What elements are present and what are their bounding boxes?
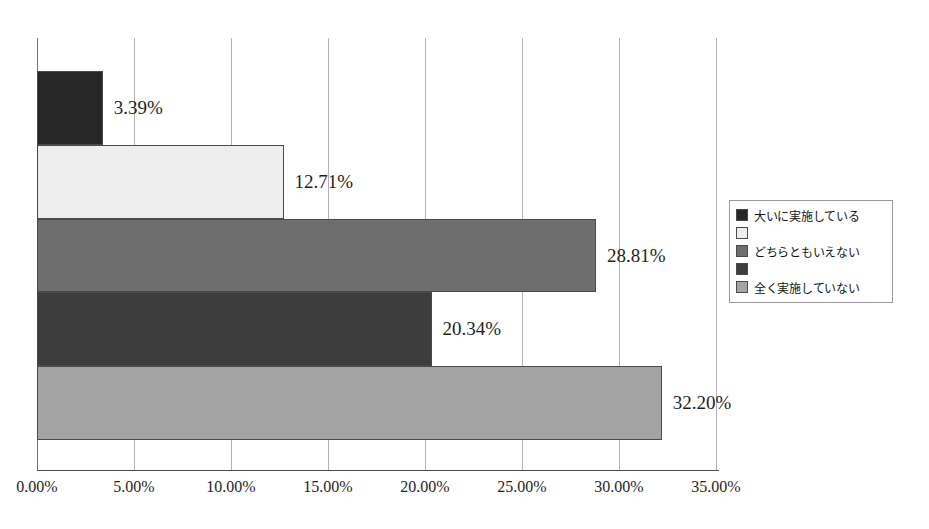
bar-value-label: 20.34% (443, 319, 502, 338)
legend-item-label: どちらともいえない (754, 243, 859, 260)
bar (37, 71, 103, 145)
bar-chart: 3.39%12.71%28.81%20.34%32.20% 0.00%5.00%… (0, 0, 929, 529)
x-tick-label: 15.00% (303, 479, 352, 495)
x-tick-label: 25.00% (497, 479, 546, 495)
x-tick-label: 10.00% (206, 479, 255, 495)
legend-item[interactable]: 全く実施していない (736, 278, 886, 296)
legend-item-label: 全く実施していない (754, 279, 859, 296)
bar-value-label: 12.71% (295, 172, 354, 191)
legend-item[interactable] (736, 224, 886, 242)
bar-value-label: 28.81% (607, 246, 666, 265)
legend-swatch-icon (736, 227, 748, 239)
x-tick-label: 20.00% (400, 479, 449, 495)
x-tick-label: 0.00% (16, 479, 57, 495)
x-axis-line (37, 470, 719, 471)
bar (37, 366, 662, 440)
legend-item-label: 大いに実施している (754, 207, 859, 224)
bar (37, 292, 432, 366)
legend-item[interactable]: 大いに実施している (736, 206, 886, 224)
bar (37, 145, 284, 219)
bar-value-label: 32.20% (673, 393, 732, 412)
legend-swatch-icon (736, 281, 748, 293)
x-tick-label: 30.00% (594, 479, 643, 495)
legend-swatch-icon (736, 209, 748, 221)
legend-item[interactable]: どちらともいえない (736, 242, 886, 260)
x-tick-label: 35.00% (691, 479, 740, 495)
x-tick-label: 5.00% (113, 479, 154, 495)
legend: 大いに実施しているどちらともいえない全く実施していない (729, 200, 893, 303)
bar (37, 219, 596, 293)
legend-swatch-icon (736, 263, 748, 275)
legend-swatch-icon (736, 245, 748, 257)
legend-item[interactable] (736, 260, 886, 278)
bar-value-label: 3.39% (114, 98, 163, 117)
